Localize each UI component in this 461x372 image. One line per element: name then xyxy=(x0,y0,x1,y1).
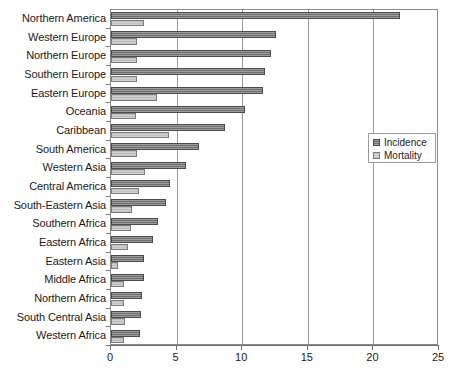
category-label: South-Eastern Asia xyxy=(14,196,106,215)
bar-group xyxy=(111,103,437,122)
y-axis-tick xyxy=(106,345,110,346)
legend-item: Incidence xyxy=(373,137,431,148)
x-axis-tick xyxy=(372,345,373,350)
category-axis: Northern AmericaWestern EuropeNorthern E… xyxy=(0,9,106,345)
category-label: Northern America xyxy=(22,9,106,28)
bar-group xyxy=(111,29,437,48)
category-label: Northern Africa xyxy=(34,289,106,308)
bar-group xyxy=(111,271,437,290)
bar-group xyxy=(111,178,437,197)
y-axis-tick xyxy=(106,140,110,141)
bar-mortality xyxy=(111,169,145,175)
bar-group xyxy=(111,85,437,104)
legend-item: Mortality xyxy=(373,150,431,161)
bar-incidence xyxy=(111,68,265,75)
bar-group xyxy=(111,197,437,216)
x-axis-tick-label: 15 xyxy=(292,351,322,363)
bar-group xyxy=(111,290,437,309)
bar-incidence xyxy=(111,124,225,131)
bar-mortality xyxy=(111,94,157,100)
x-axis-tick xyxy=(241,345,242,350)
y-axis-tick xyxy=(106,252,110,253)
bar-mortality xyxy=(111,150,137,156)
bar-group xyxy=(111,234,437,253)
category-label: Central America xyxy=(29,177,106,196)
x-axis-tick-label: 20 xyxy=(357,351,387,363)
bar-mortality xyxy=(111,244,128,250)
plot-area xyxy=(110,9,438,345)
x-axis-line xyxy=(110,345,438,346)
y-axis-tick xyxy=(106,46,110,47)
category-label: Eastern Asia xyxy=(45,252,106,271)
x-axis-tick-label: 0 xyxy=(95,351,125,363)
bar-mortality xyxy=(111,337,124,343)
category-label: Western Asia xyxy=(43,158,106,177)
x-axis-tick xyxy=(110,345,111,350)
y-axis-tick xyxy=(106,196,110,197)
bar-group xyxy=(111,327,437,346)
bar-mortality xyxy=(111,300,124,306)
y-axis-tick xyxy=(106,121,110,122)
bar-incidence xyxy=(111,106,245,113)
y-axis-tick xyxy=(106,84,110,85)
y-axis-tick xyxy=(106,308,110,309)
bar-incidence xyxy=(111,143,199,150)
category-label: Western Europe xyxy=(28,28,106,47)
bar-incidence xyxy=(111,180,170,187)
bar-mortality xyxy=(111,113,136,119)
legend-label: Mortality xyxy=(384,150,422,161)
bar-group xyxy=(111,215,437,234)
x-axis-tick-label: 10 xyxy=(226,351,256,363)
category-label: Southern Europe xyxy=(24,65,106,84)
category-label: Eastern Africa xyxy=(39,233,106,252)
bar-mortality xyxy=(111,76,137,82)
bar-mortality xyxy=(111,20,144,26)
y-axis-tick xyxy=(106,102,110,103)
bar-incidence xyxy=(111,162,186,169)
y-axis-tick xyxy=(106,289,110,290)
mortality-swatch-icon xyxy=(373,152,380,159)
bar-incidence xyxy=(111,292,142,299)
y-axis-tick xyxy=(106,65,110,66)
y-axis-tick xyxy=(106,158,110,159)
category-label: Southern Africa xyxy=(32,214,106,233)
x-axis-tick-label: 5 xyxy=(161,351,191,363)
category-label: Oceania xyxy=(66,102,106,121)
x-axis-tick xyxy=(438,345,439,350)
x-axis-tick xyxy=(176,345,177,350)
y-axis-tick xyxy=(106,270,110,271)
bar-incidence xyxy=(111,31,276,38)
y-axis-tick xyxy=(106,177,110,178)
bar-incidence xyxy=(111,236,153,243)
y-axis-tick xyxy=(106,28,110,29)
category-label: South Central Asia xyxy=(17,308,106,327)
incidence-swatch-icon xyxy=(373,139,380,146)
bar-incidence xyxy=(111,311,141,318)
bar-mortality xyxy=(111,132,169,138)
bar-mortality xyxy=(111,206,132,212)
y-axis-tick xyxy=(106,326,110,327)
category-label: Western Africa xyxy=(36,326,106,345)
bar-mortality xyxy=(111,281,124,287)
category-label: South America xyxy=(36,140,106,159)
category-label: Caribbean xyxy=(56,121,106,140)
bar-incidence xyxy=(111,199,166,206)
bar-incidence xyxy=(111,12,400,19)
x-axis-tick xyxy=(307,345,308,350)
bar-mortality xyxy=(111,188,139,194)
y-axis-tick xyxy=(106,233,110,234)
bar-mortality xyxy=(111,262,118,268)
bar-incidence xyxy=(111,255,144,262)
category-label: Northern Europe xyxy=(26,46,106,65)
category-label: Eastern Europe xyxy=(31,84,106,103)
chart-legend: IncidenceMortality xyxy=(368,133,436,163)
bar-incidence xyxy=(111,330,140,337)
bar-mortality xyxy=(111,38,137,44)
bar-group xyxy=(111,66,437,85)
bar-mortality xyxy=(111,225,131,231)
bar-group xyxy=(111,253,437,272)
bar-incidence xyxy=(111,87,263,94)
bar-incidence xyxy=(111,218,158,225)
bar-incidence xyxy=(111,50,271,57)
category-label: Middle Africa xyxy=(44,270,106,289)
